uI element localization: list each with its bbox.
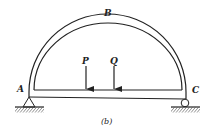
label-b: B: [103, 8, 112, 18]
label-p: P: [81, 56, 89, 66]
label-a: A: [16, 84, 24, 94]
deck-bottom-line: [29, 97, 186, 99]
caption: (b): [101, 117, 112, 126]
pin-support-a: [15, 97, 44, 113]
arch-diagram: B A C P Q (b): [0, 0, 211, 133]
label-c: C: [192, 85, 200, 95]
outer-arch: [29, 14, 186, 99]
label-q: Q: [110, 56, 118, 66]
roller-support-c: [171, 99, 200, 112]
